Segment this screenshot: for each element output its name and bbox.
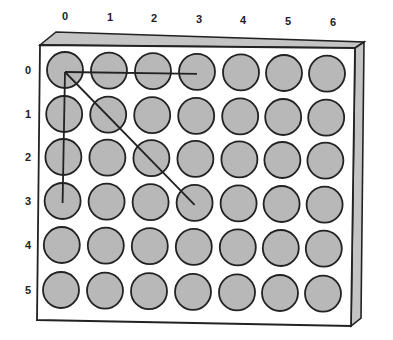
hole [132,228,168,264]
grid-board: 0123456 012345 [0,0,393,340]
hole [131,273,167,309]
column-label: 3 [196,13,202,25]
hole [264,142,300,178]
hole [264,186,300,222]
column-labels: 0123456 [62,10,336,28]
hole [133,184,169,220]
row-label: 3 [25,195,31,207]
hole [262,275,298,311]
hole [222,98,258,134]
row-label: 1 [25,108,31,120]
row-labels: 012345 [25,64,32,296]
column-label: 0 [62,10,68,22]
hole [220,229,256,265]
hole [305,276,341,312]
hole [177,141,213,177]
hole [309,56,345,92]
hole [91,53,127,89]
hole [221,141,257,177]
hole [134,97,170,133]
hole [135,53,171,89]
hole [219,274,255,310]
column-label: 4 [240,14,247,26]
hole [44,227,80,263]
hole [89,184,125,220]
hole [266,55,302,91]
row-label: 0 [25,64,31,76]
column-label: 6 [330,16,336,28]
hole [178,98,214,134]
hole [306,231,342,267]
hole [179,54,215,90]
hole [308,100,344,136]
hole [90,97,126,133]
hole [221,185,257,221]
hole [88,228,124,264]
hole [43,272,79,308]
hole [89,140,125,176]
hole [175,274,211,310]
row-label: 5 [25,284,31,296]
row-label: 2 [25,151,31,163]
column-label: 2 [151,12,157,24]
hole [223,54,259,90]
hole [263,230,299,266]
hole [133,140,169,176]
column-label: 5 [285,15,291,27]
hole [307,143,343,179]
hole [307,187,343,223]
row-label: 4 [25,239,32,251]
hole [176,229,212,265]
hole [177,185,213,221]
column-label: 1 [107,11,113,23]
hole [87,273,123,309]
hole [265,99,301,135]
